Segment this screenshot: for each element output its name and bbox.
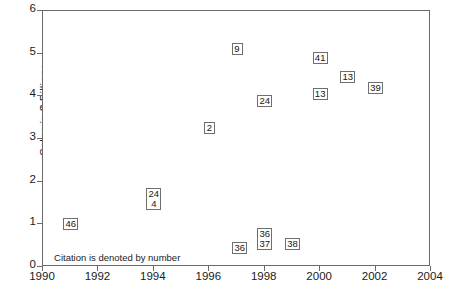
data-point-marker: 13 bbox=[313, 88, 328, 100]
y-tick-label: 5 bbox=[10, 45, 36, 57]
x-tick-mark bbox=[153, 266, 154, 271]
plot-area: 4624429362436373841131339 Citation is de… bbox=[42, 10, 430, 266]
data-point-label: 4 bbox=[151, 199, 156, 209]
y-tick-label: 3 bbox=[10, 130, 36, 142]
data-point-marker: 2 bbox=[204, 122, 215, 134]
data-point-label: 2 bbox=[207, 123, 212, 133]
x-tick-mark bbox=[97, 266, 98, 271]
data-point-label: 41 bbox=[315, 53, 326, 63]
data-point-label: 13 bbox=[315, 89, 326, 99]
data-point-marker: 3637 bbox=[257, 228, 272, 250]
x-tick-label: 1998 bbox=[242, 270, 286, 282]
x-tick-mark bbox=[264, 266, 265, 271]
data-point-label: 13 bbox=[343, 72, 354, 82]
y-tick-label: 6 bbox=[10, 2, 36, 14]
data-point-marker: 39 bbox=[368, 82, 383, 94]
x-tick-label: 1994 bbox=[131, 270, 175, 282]
data-point-label: 46 bbox=[65, 219, 76, 229]
x-tick-mark bbox=[42, 266, 43, 271]
y-tick-label: 4 bbox=[10, 87, 36, 99]
data-point-label: 39 bbox=[370, 83, 381, 93]
data-point-marker: 41 bbox=[313, 52, 328, 64]
x-tick-mark bbox=[208, 266, 209, 271]
x-tick-mark bbox=[430, 266, 431, 271]
data-point-label: 36 bbox=[234, 243, 245, 253]
x-tick-label: 1996 bbox=[186, 270, 230, 282]
x-tick-label: 1992 bbox=[75, 270, 119, 282]
x-tick-label: 2002 bbox=[353, 270, 397, 282]
x-tick-label: 2000 bbox=[297, 270, 341, 282]
data-point-label: 38 bbox=[287, 239, 298, 249]
x-tick-mark bbox=[375, 266, 376, 271]
y-tick-label: 2 bbox=[10, 173, 36, 185]
data-point-label: 9 bbox=[234, 44, 239, 54]
data-point-label: 37 bbox=[259, 239, 270, 249]
data-point-marker: 36 bbox=[232, 242, 247, 254]
y-tick-label: 0 bbox=[10, 258, 36, 270]
data-point-marker: 244 bbox=[146, 188, 161, 210]
data-point-marker: 13 bbox=[340, 71, 355, 83]
y-tick-label: 1 bbox=[10, 215, 36, 227]
data-point-label: 24 bbox=[259, 96, 270, 106]
data-point-marker: 38 bbox=[285, 238, 300, 250]
scatter-chart: Sales in $ Billions 0123456 199019921994… bbox=[0, 0, 449, 299]
data-point-marker: 24 bbox=[257, 95, 272, 107]
x-tick-mark bbox=[319, 266, 320, 271]
x-tick-label: 2004 bbox=[408, 270, 449, 282]
data-point-marker: 46 bbox=[63, 218, 78, 230]
x-tick-label: 1990 bbox=[20, 270, 64, 282]
data-point-marker: 9 bbox=[232, 43, 243, 55]
chart-annotation: Citation is denoted by number bbox=[54, 252, 180, 263]
